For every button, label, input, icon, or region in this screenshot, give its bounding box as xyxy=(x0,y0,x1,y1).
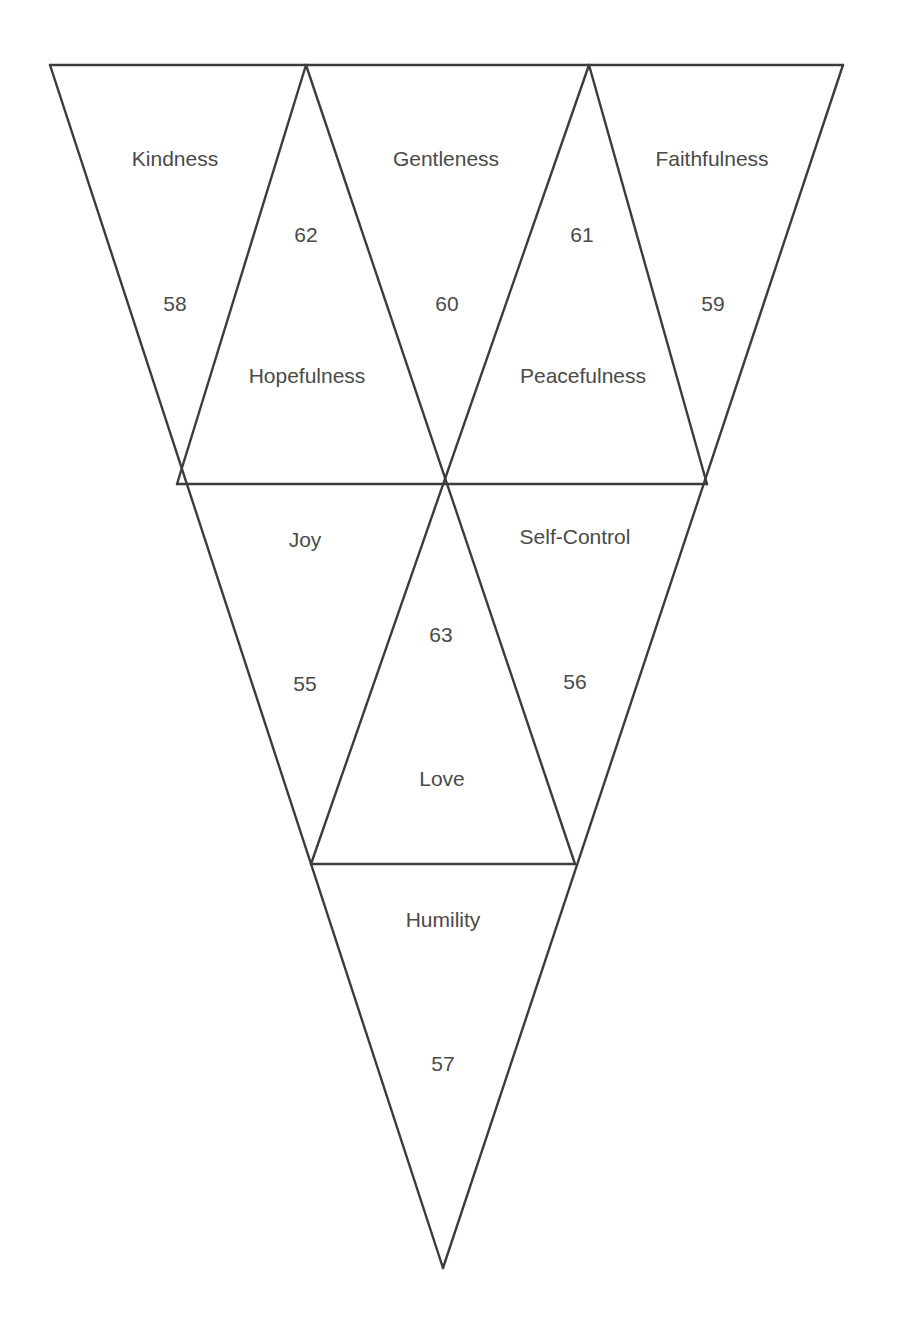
cell-value: 59 xyxy=(701,292,724,315)
cell-value: 62 xyxy=(294,223,317,246)
cell-value: 57 xyxy=(431,1052,454,1075)
triangle-diagram: Kindness 58 62 Hopefulness Gentleness 60… xyxy=(0,0,901,1322)
cell-humility: Humility 57 xyxy=(406,908,481,1075)
cell-value: 61 xyxy=(570,223,593,246)
cell-value: 60 xyxy=(435,292,458,315)
cell-label: Peacefulness xyxy=(520,364,646,387)
cell-self-control: Self-Control 56 xyxy=(520,525,631,693)
cell-value: 55 xyxy=(293,672,316,695)
cell-faithfulness: Faithfulness 59 xyxy=(655,147,768,315)
outer-left-edge xyxy=(50,65,443,1268)
cell-gentleness: Gentleness 60 xyxy=(393,147,499,315)
cell-hopefulness: 62 Hopefulness xyxy=(249,223,366,387)
cell-label: Gentleness xyxy=(393,147,499,170)
diagonal-c xyxy=(311,65,589,864)
cell-label: Faithfulness xyxy=(655,147,768,170)
cell-label: Love xyxy=(419,767,465,790)
cell-kindness: Kindness 58 xyxy=(132,147,218,315)
cell-label: Self-Control xyxy=(520,525,631,548)
cell-label: Hopefulness xyxy=(249,364,366,387)
cell-joy: Joy 55 xyxy=(289,528,322,695)
grid-lines xyxy=(50,65,843,1268)
cell-value: 63 xyxy=(429,623,452,646)
cell-peacefulness: 61 Peacefulness xyxy=(520,223,646,387)
diagonal-d xyxy=(589,65,707,484)
cell-value: 58 xyxy=(163,292,186,315)
cell-label: Kindness xyxy=(132,147,218,170)
outer-right-edge xyxy=(443,65,843,1268)
cell-label: Joy xyxy=(289,528,322,551)
diagonal-b xyxy=(306,65,575,864)
cell-label: Humility xyxy=(406,908,481,931)
cell-love: 63 Love xyxy=(419,623,465,790)
diagonal-a xyxy=(177,65,306,484)
cell-value: 56 xyxy=(563,670,586,693)
